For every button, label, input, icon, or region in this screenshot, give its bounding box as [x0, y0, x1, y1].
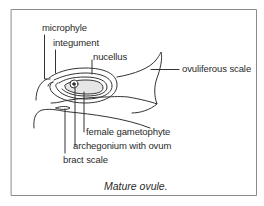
- microphyle-leader: [45, 35, 51, 79]
- scale-base-left: [36, 79, 47, 100]
- bract-scale-shape: [56, 107, 70, 110]
- label-nucellus: nucellus: [93, 52, 127, 62]
- figure-frame: [12, 10, 257, 196]
- figure-caption: Mature ovule.: [104, 181, 168, 192]
- scale-lower-edge: [132, 104, 157, 113]
- label-archegonium-with-ovum: archegonium with ovum: [73, 141, 171, 151]
- label-bract-scale: bract scale: [63, 155, 108, 165]
- label-integument: integument: [53, 38, 99, 48]
- label-microphyle: microphyle: [42, 23, 87, 33]
- ovule-drawing: [0, 0, 264, 206]
- mature-ovule-diagram: microphyle integument nucellus ovulifero…: [0, 0, 264, 206]
- label-ovuliferous-scale: ovuliferous scale: [182, 64, 251, 74]
- ovum-dot: [73, 83, 76, 86]
- label-female-gametophyte: female gametophyte: [86, 127, 170, 137]
